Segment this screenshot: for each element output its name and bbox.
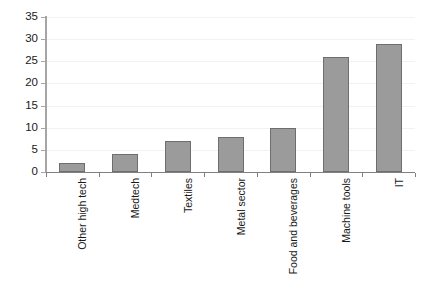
bar-chart: 05101520253035 Other high techMedtechTex… (0, 0, 428, 283)
y-axis-tick (41, 128, 46, 129)
x-axis-tick-label: Other high tech (77, 178, 88, 250)
x-axis-tick-label: Metal sector (236, 178, 247, 235)
y-axis-tick-label: 15 (14, 100, 38, 111)
x-axis-tick (204, 173, 205, 177)
y-axis-tick-label: 35 (14, 11, 38, 22)
bar (218, 137, 244, 172)
plot-area (46, 17, 415, 172)
gridline (46, 106, 415, 107)
gridline (46, 39, 415, 40)
x-axis-tick (362, 173, 363, 177)
x-axis-line (45, 172, 415, 173)
x-axis-tick (257, 173, 258, 177)
x-axis-tick (415, 173, 416, 177)
bar (59, 163, 85, 172)
x-axis-tick (151, 173, 152, 177)
bar (323, 57, 349, 172)
y-axis-tick-label: 0 (14, 166, 38, 177)
y-axis-tick (41, 150, 46, 151)
y-axis-tick (41, 106, 46, 107)
x-axis-tick-label: Machine tools (341, 178, 352, 243)
bar (270, 128, 296, 172)
y-axis-tick (41, 61, 46, 62)
y-axis-tick (41, 17, 46, 18)
y-axis-tick-label: 20 (14, 77, 38, 88)
gridline (46, 83, 415, 84)
y-axis-tick-label: 30 (14, 33, 38, 44)
bar (376, 44, 402, 172)
x-axis-tick (46, 173, 47, 177)
y-axis-tick-label: 5 (14, 144, 38, 155)
x-axis-tick-label: Textiles (183, 178, 194, 213)
y-axis-tick (41, 83, 46, 84)
gridline (46, 128, 415, 129)
gridline (46, 61, 415, 62)
y-axis-tick (41, 39, 46, 40)
x-axis-tick-label: Medtech (130, 178, 141, 218)
bar (112, 154, 138, 172)
x-axis-tick (99, 173, 100, 177)
x-axis-tick-label: Food and beverages (288, 178, 299, 274)
y-axis-tick-label: 10 (14, 122, 38, 133)
x-axis-tick (310, 173, 311, 177)
gridline (46, 17, 415, 18)
bar (165, 141, 191, 172)
y-axis-tick-label: 25 (14, 55, 38, 66)
x-axis-tick-label: IT (394, 178, 405, 187)
